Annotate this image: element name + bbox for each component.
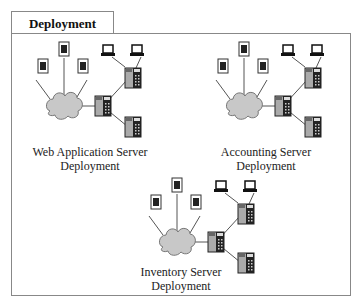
inventory-server-diagram (149, 178, 257, 273)
label-line-1: Inventory Server (111, 265, 251, 279)
accounting-server-diagram (216, 42, 324, 137)
label-line-2: Deployment (196, 159, 336, 173)
label-line-2: Deployment (111, 279, 251, 293)
label-line-1: Accounting Server (196, 145, 336, 159)
web-application-server-label: Web Application Server Deployment (20, 145, 160, 173)
accounting-server-label: Accounting Server Deployment (196, 145, 336, 173)
inventory-server-label: Inventory Server Deployment (111, 265, 251, 293)
web-application-server-diagram (36, 42, 144, 137)
label-line-1: Web Application Server (20, 145, 160, 159)
label-line-2: Deployment (20, 159, 160, 173)
